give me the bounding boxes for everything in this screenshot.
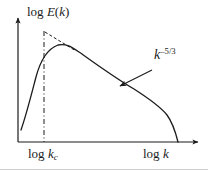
slope-annotation-arrow [120, 70, 152, 86]
log-k-prefix: log [143, 146, 163, 161]
power-law-annotation: k–5/3 [154, 47, 176, 62]
y-axis-label: log E(k) [27, 5, 69, 18]
log-k-symbol: k [163, 146, 169, 161]
energy-spectrum-figure: log E(k) log kc log k k–5/3 [0, 0, 208, 170]
y-axis-label-paren-close: ) [65, 4, 69, 19]
tangent-construction-line [45, 32, 76, 51]
y-axis-label-prefix: log [27, 4, 47, 19]
log-kc-subscript: c [54, 152, 58, 162]
figure-bottom-border [0, 169, 208, 170]
plot-canvas [0, 0, 208, 170]
power-law-exponent: –5/3 [160, 46, 175, 56]
log-kc-prefix: log [28, 146, 48, 161]
y-axis-label-symbol: E [47, 4, 55, 19]
x-axis-tick-label-log-kc: log kc [28, 147, 58, 162]
x-axis-tick-label-log-k: log k [143, 147, 169, 160]
